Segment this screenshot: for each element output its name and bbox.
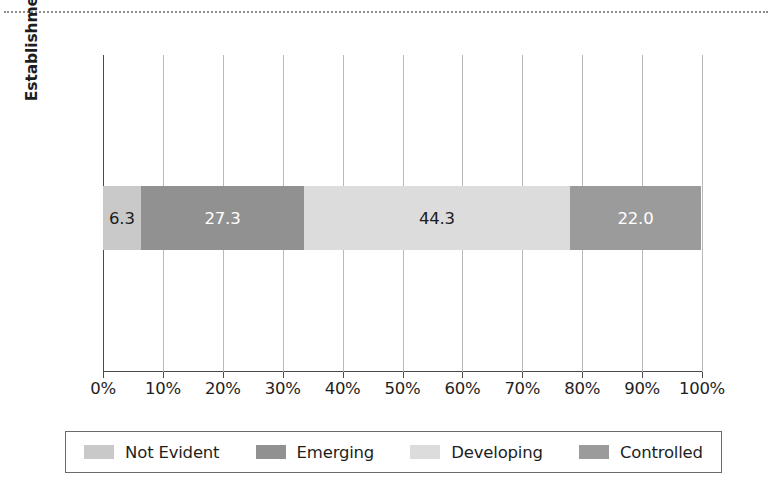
tick-80%: [582, 372, 583, 378]
x-tick-label-10%: 10%: [145, 379, 181, 398]
legend-label: Not Evident: [125, 443, 219, 462]
tick-100%: [702, 372, 703, 378]
plot-area: 6.327.344.322.0: [103, 55, 702, 372]
legend-item-emerging[interactable]: Emerging: [256, 443, 375, 462]
legend-item-controlled[interactable]: Controlled: [579, 443, 703, 462]
tick-90%: [642, 372, 643, 378]
bar-segment-developing[interactable]: 44.3: [304, 186, 569, 250]
top-dotted-rule: [4, 11, 768, 13]
tick-60%: [462, 372, 463, 378]
x-tick-label-30%: 30%: [265, 379, 301, 398]
tick-20%: [223, 372, 224, 378]
y-axis-title-lines: Between Ideas Establishment of Advanced …: [23, 0, 61, 101]
tick-30%: [283, 372, 284, 378]
legend-label: Emerging: [297, 443, 375, 462]
y-axis-title: Between Ideas Establishment of Advanced …: [14, 0, 70, 92]
legend-swatch-icon: [410, 445, 440, 459]
legend-label: Developing: [451, 443, 542, 462]
y-axis-title-line-1: Establishment of Advanced Relationships: [23, 0, 42, 101]
x-tick-label-0%: 0%: [90, 379, 116, 398]
legend-item-developing[interactable]: Developing: [410, 443, 542, 462]
x-tick-label-50%: 50%: [385, 379, 421, 398]
tick-10%: [163, 372, 164, 378]
legend-swatch-icon: [579, 445, 609, 459]
tick-50%: [403, 372, 404, 378]
tick-40%: [343, 372, 344, 378]
tick-70%: [522, 372, 523, 378]
legend-swatch-icon: [256, 445, 286, 459]
x-tick-label-20%: 20%: [205, 379, 241, 398]
x-tick-label-60%: 60%: [445, 379, 481, 398]
legend-label: Controlled: [620, 443, 703, 462]
gridline-100%: [702, 55, 703, 372]
chart-legend: Not EvidentEmergingDevelopingControlled: [65, 431, 722, 473]
stacked-bar[interactable]: 6.327.344.322.0: [103, 186, 702, 250]
x-tick-label-80%: 80%: [564, 379, 600, 398]
bar-segment-emerging[interactable]: 27.3: [141, 186, 305, 250]
bar-segment-not-evident[interactable]: 6.3: [103, 186, 141, 250]
chart-figure: Between Ideas Establishment of Advanced …: [0, 0, 772, 503]
legend-item-not-evident[interactable]: Not Evident: [84, 443, 219, 462]
tick-0%: [103, 372, 104, 378]
x-tick-label-100%: 100%: [679, 379, 725, 398]
x-tick-label-90%: 90%: [624, 379, 660, 398]
x-tick-label-40%: 40%: [325, 379, 361, 398]
legend-swatch-icon: [84, 445, 114, 459]
bar-segment-controlled[interactable]: 22.0: [570, 186, 702, 250]
x-tick-label-70%: 70%: [504, 379, 540, 398]
